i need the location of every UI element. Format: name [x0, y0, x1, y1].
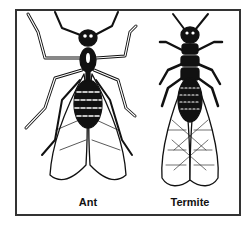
termite-illustration [160, 14, 222, 186]
termite-label: Termite [171, 196, 210, 208]
ant-illustration [26, 12, 136, 179]
ant-label: Ant [79, 196, 97, 208]
insect-illustrations [0, 0, 251, 225]
